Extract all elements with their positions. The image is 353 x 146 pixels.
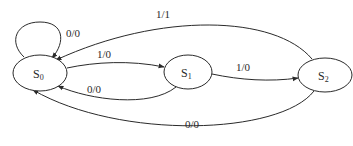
transition-s1-s2 — [212, 74, 298, 80]
state-s0-subscript: 0 — [40, 73, 44, 82]
transition-s0-s0 — [16, 22, 61, 58]
state-s0: S0 — [13, 55, 67, 91]
transition-s1-s0 — [58, 86, 176, 100]
transition-label-s2-s0-bottom: 0/0 — [185, 118, 200, 130]
state-s2-subscript: 2 — [325, 75, 329, 84]
transition-label-s0-s1: 1/0 — [97, 48, 112, 60]
state-s1: S1 — [164, 55, 212, 89]
transition-s2-s0-bottom — [33, 90, 314, 126]
state-s2-label: S — [318, 69, 325, 83]
state-s2: S2 — [298, 58, 352, 92]
transition-s0-s1 — [67, 63, 164, 68]
state-s1-subscript: 1 — [188, 72, 192, 81]
state-diagram: 0/0 1/1 1/0 0/0 1/0 0/0 S0 S1 S2 — [0, 0, 353, 146]
state-s1-label: S — [181, 66, 188, 80]
transition-label-s1-s2: 1/0 — [236, 61, 251, 73]
transition-label-s2-s0-top: 1/1 — [156, 8, 170, 20]
transition-label-s0-s0: 0/0 — [66, 27, 81, 39]
state-s0-label: S — [33, 67, 40, 81]
transition-label-s1-s0: 0/0 — [87, 83, 102, 95]
